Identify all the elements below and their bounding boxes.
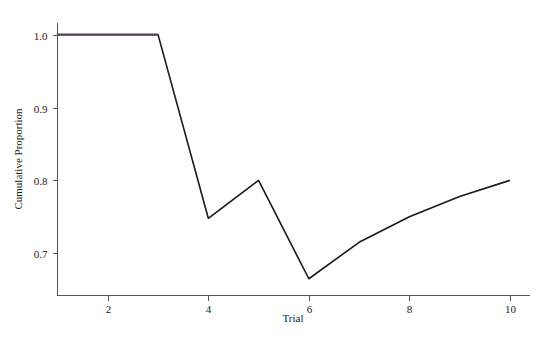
x-tick-label: 4 [206,303,212,315]
x-tick-label: 6 [307,303,313,315]
y-tick-label: 0.8 [34,175,48,187]
x-tick-label: 2 [106,303,112,315]
y-tick-label: 0.7 [34,248,48,260]
chart-figure: 0.70.80.91.0 246810 Trial Cumulative Pro… [0,0,550,338]
y-axis-title: Cumulative Proportion [12,108,24,210]
y-tick-label: 0.9 [34,103,48,115]
y-tick-label: 1.0 [34,30,48,42]
chart-background [0,0,550,338]
line-chart: 0.70.80.91.0 246810 Trial Cumulative Pro… [0,0,550,338]
x-tick-label: 8 [407,303,413,315]
x-tick-label: 10 [505,303,517,315]
x-axis-title: Trial [283,312,304,324]
